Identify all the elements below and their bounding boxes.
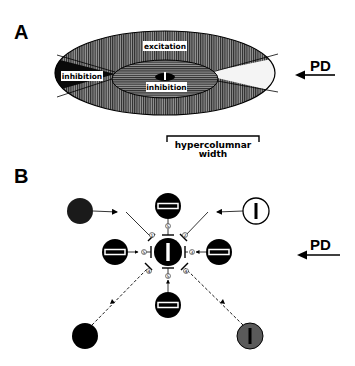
left-inhibition-label: inhibition	[62, 72, 102, 81]
corner-neuron-bottom-left	[72, 323, 98, 349]
svg-text:4: 4	[148, 269, 151, 274]
corner-neuron-top-left	[67, 198, 93, 224]
synapse-number-bottom-left: 4	[147, 269, 152, 274]
svg-text:3: 3	[191, 250, 194, 255]
synapse-number-top-left: 1	[150, 233, 155, 238]
preferred-direction-a: PD	[295, 57, 335, 80]
vertical-bar-icon	[166, 243, 169, 261]
excitation-label: excitation	[144, 42, 186, 51]
surround-neuron-top	[155, 193, 181, 219]
preferred-direction-b: PD	[297, 236, 340, 260]
corner-neuron-bottom-right	[237, 323, 263, 349]
vertical-bar-icon	[164, 72, 166, 80]
synapse-number-bottom-right: 4	[184, 269, 189, 274]
synapse-number-top-right: 2	[183, 233, 188, 238]
synapse-number-left: 5	[142, 250, 147, 255]
hypercolumnar-scale-bar: hypercolumnar width	[167, 136, 259, 159]
panel-a-label: A	[14, 21, 28, 43]
surround-neuron-right	[206, 239, 232, 265]
figure: A excitation inhibition	[0, 0, 355, 366]
pd-label-b: PD	[310, 236, 331, 253]
svg-text:5: 5	[167, 224, 170, 229]
panel-a: A excitation inhibition	[14, 21, 335, 159]
receptive-field-diagram: excitation inhibition inhibition	[40, 31, 290, 115]
center-inhibition-label: inhibition	[146, 83, 186, 92]
pd-label-a: PD	[310, 57, 331, 74]
surround-neuron-bottom	[155, 292, 181, 318]
svg-text:5: 5	[143, 250, 146, 255]
synapse-number-bottom: 5	[166, 274, 171, 279]
panel-b-label: B	[14, 165, 28, 187]
corner-neuron-top-right	[243, 198, 269, 224]
svg-text:4: 4	[185, 269, 188, 274]
vertical-bar-icon	[249, 328, 252, 344]
svg-text:5: 5	[167, 274, 170, 279]
center-neuron	[154, 238, 182, 266]
scale-bar-label-line2: width	[199, 149, 228, 159]
synapse-number-right: 3	[190, 250, 195, 255]
svg-text:1: 1	[151, 233, 154, 238]
surround-neuron-left	[102, 239, 128, 265]
synapse-number-top: 5	[166, 224, 171, 229]
svg-text:2: 2	[184, 233, 187, 238]
vertical-bar-icon	[255, 203, 258, 219]
panel-b: B PD	[14, 165, 340, 349]
